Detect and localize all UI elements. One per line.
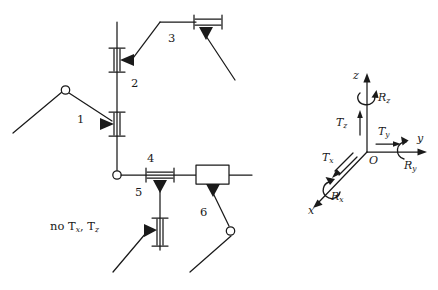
- axis-y-label: y: [417, 133, 423, 144]
- link-2-to-3: [133, 22, 196, 58]
- constraint-note-tz-sub: z: [95, 225, 99, 234]
- joint-2-label: 2: [131, 78, 138, 90]
- kinematic-diagram-figure: 1 2 3 4 5 6 no Tx, Tz z y x O Tz Ty Tx R…: [0, 0, 438, 290]
- revolute-joint-left-pin: [61, 86, 69, 94]
- rotation-z-arc: [358, 90, 379, 105]
- origin-label: O: [369, 155, 378, 166]
- constraint-note-tx: T: [68, 219, 76, 233]
- diagram-drawing: [0, 0, 438, 290]
- rotation-y-label: Ry: [404, 160, 417, 172]
- joint-3-label: 3: [168, 33, 175, 45]
- joint-5-label: 5: [135, 187, 142, 199]
- axis-x-arrowhead: [313, 200, 323, 208]
- prismatic-joint-3-symbol: [194, 15, 222, 29]
- link-5-output: [113, 233, 146, 272]
- constraint-note-tz: T: [87, 219, 95, 233]
- axis-y-arrowhead: [418, 148, 428, 155]
- constraint-note-prefix: no: [50, 219, 64, 233]
- axis-z-arrowhead: [363, 73, 370, 83]
- translation-x-label: Tx: [322, 152, 334, 164]
- translation-z-label: Tz: [336, 117, 347, 129]
- joint-4-label: 4: [147, 153, 154, 165]
- revolute-joint-6-pin: [226, 227, 234, 235]
- translation-y-label: Ty: [378, 126, 390, 138]
- link-6: [190, 193, 231, 272]
- rotation-y-arc: [397, 137, 408, 160]
- constraint-note: no Tx, Tz: [50, 221, 99, 233]
- joint-6-label: 6: [200, 207, 207, 219]
- prismatic-joint-2-arrow: [120, 54, 134, 66]
- link-3-output: [206, 36, 235, 80]
- joint-1-label: 1: [77, 114, 84, 126]
- translation-y-arrow: [376, 141, 401, 147]
- link-1: [13, 92, 112, 133]
- revolute-joint-base-pin: [113, 171, 121, 179]
- axis-z-label: z: [353, 70, 359, 81]
- prismatic-joint-3-arrow: [199, 27, 213, 40]
- translation-z-arrow: [357, 110, 363, 135]
- axis-x-label: x: [308, 205, 314, 216]
- prismatic-joint-1-arrow: [100, 118, 114, 130]
- prismatic-joint-5-arrow: [144, 224, 157, 237]
- rotation-x-label: Rx: [331, 191, 344, 203]
- rotation-z-label: Rz: [378, 92, 390, 104]
- prismatic-joint-6-arrow: [206, 184, 220, 197]
- prismatic-joint-6-block: [196, 165, 229, 184]
